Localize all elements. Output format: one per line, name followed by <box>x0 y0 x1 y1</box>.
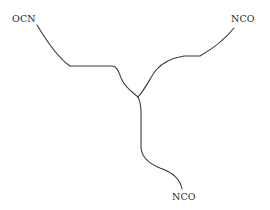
nco-label-top-right: NCO <box>231 14 255 24</box>
branch-lines <box>0 0 270 210</box>
ocn-label-top-left: OCN <box>12 14 36 24</box>
left-arm-line <box>37 25 138 97</box>
right-arm-line <box>138 28 234 97</box>
nco-label-bottom: NCO <box>172 192 196 202</box>
trifunctional-isocyanate-diagram: OCN NCO NCO <box>0 0 270 210</box>
bottom-arm-line <box>138 97 182 189</box>
